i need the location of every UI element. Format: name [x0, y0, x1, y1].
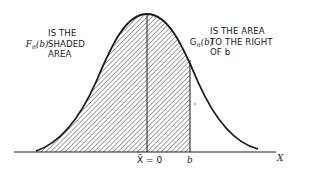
- right-annotation: Gn(b) IS THE AREA TO THE RIGHT OF b: [184, 26, 213, 59]
- left-annotation: Fn(b) IS THE SHADED AREA: [20, 28, 49, 61]
- b-label: b: [187, 155, 193, 165]
- dot-mark: [194, 103, 196, 105]
- x-axis-label: X: [277, 153, 283, 163]
- mean-label: X̄ = 0: [137, 155, 162, 165]
- gn-description: IS THE AREA TO THE RIGHT OF b: [210, 26, 273, 58]
- fn-description: IS THE SHADED AREA: [48, 28, 85, 60]
- fn-symbol: Fn(b): [26, 39, 49, 49]
